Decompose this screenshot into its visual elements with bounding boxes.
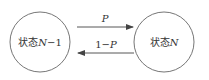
state-diagram: 状态N−1 状态N P 1−P [0, 0, 209, 80]
edge-label-1-minus-p: 1−P [95, 39, 117, 50]
edge-forward: P [77, 13, 133, 27]
edge-backward: 1−P [78, 39, 134, 53]
node-state-n-minus-1: 状态N−1 [10, 12, 70, 72]
node-label: 状态N−1 [18, 36, 62, 48]
node-label: 状态N [150, 36, 180, 48]
edge-label-p: P [101, 13, 109, 24]
node-state-n: 状态N [134, 12, 194, 72]
